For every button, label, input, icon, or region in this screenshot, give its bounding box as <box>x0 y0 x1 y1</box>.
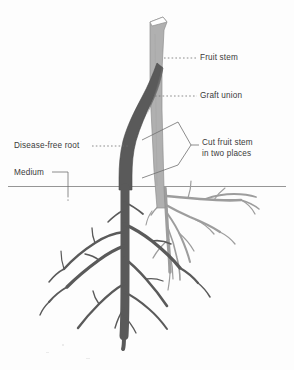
light-root-branch <box>166 205 220 232</box>
scan-speck <box>46 352 49 353</box>
dark-root-branch <box>180 268 198 283</box>
dark-root-branch <box>85 254 99 260</box>
label-cut-fruit-stem: Cut fruit stem in two places <box>202 138 253 159</box>
light-root-branch <box>205 194 256 199</box>
grafted-plant-figure <box>0 0 294 370</box>
cut-marks-group <box>142 122 199 178</box>
leader-medium <box>52 172 68 196</box>
light-root-branch <box>220 232 235 244</box>
dark-root-branch <box>124 258 167 306</box>
dark-root-branch <box>61 251 64 269</box>
light-root-branch <box>146 211 152 225</box>
label-fruit-stem: Fruit stem <box>200 53 238 64</box>
light-root-branch <box>168 272 170 290</box>
dark-root-branch <box>49 269 64 282</box>
dark-taproot-tip <box>123 336 124 349</box>
light-root-branch <box>188 181 191 198</box>
fruit-stem-body <box>150 17 167 208</box>
dark-root-branch <box>92 228 95 243</box>
label-graft-union: Graft union <box>200 91 242 102</box>
dark-root-branch <box>67 246 124 287</box>
label-medium: Medium <box>14 168 44 179</box>
dark-root-branch <box>198 283 210 297</box>
dark-root-branch <box>93 291 99 304</box>
scan-speck <box>86 358 90 359</box>
label-disease-free-root: Disease-free root <box>14 141 79 152</box>
scan-speck <box>62 344 64 346</box>
light-root-branch <box>166 196 241 200</box>
dark-root-branch <box>40 302 49 315</box>
dark-root-system <box>40 188 210 349</box>
cut-bracket <box>178 122 191 165</box>
fruit-stem <box>150 17 167 208</box>
dark-root-branch <box>49 287 67 302</box>
diagram-canvas: Fruit stem Graft union Cut fruit stem in… <box>0 0 294 370</box>
